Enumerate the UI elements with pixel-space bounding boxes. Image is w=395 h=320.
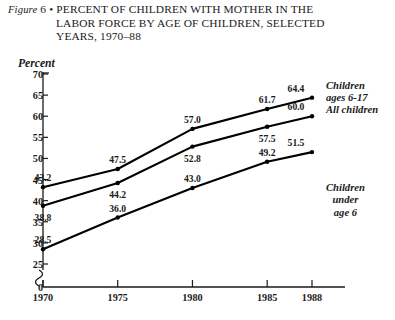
data-point-marker [116, 215, 120, 219]
legend-label-line-2: ages 6-17 [326, 92, 368, 104]
data-point-marker [116, 181, 120, 185]
y-axis-tick-label: 60 [21, 111, 43, 122]
data-point-label: 38.8 [35, 211, 52, 222]
data-point-label: 64.4 [288, 82, 305, 93]
data-point-marker [310, 150, 314, 154]
legend-label: Children [326, 182, 365, 193]
data-point-marker [190, 144, 194, 148]
data-point-label: 43.0 [184, 173, 201, 184]
x-axis-tick-label: 1970 [33, 292, 53, 303]
line-chart: Percent 706560555045403530250 1970197519… [0, 0, 395, 320]
data-point-label: 61.7 [259, 94, 276, 105]
data-point-label: 60.0 [288, 101, 305, 112]
data-point-marker [265, 160, 269, 164]
data-point-marker [116, 167, 120, 171]
data-point-label: 51.5 [288, 137, 305, 148]
legend-entry: All children [326, 104, 378, 116]
data-point-label: 52.8 [184, 152, 201, 163]
x-axis-tick-label: 1988 [302, 292, 322, 303]
legend-entry: Childrenages 6-17 [326, 80, 368, 105]
y-axis-tick-label-zero: 0 [21, 282, 43, 293]
y-axis-tick-label: 65 [21, 90, 43, 101]
y-axis-tick-labels: 706560555045403530250 [0, 0, 43, 320]
legend-label-line-2: under [326, 194, 365, 206]
legend-label: All children [326, 104, 378, 115]
data-point-label: 49.2 [259, 146, 276, 157]
x-axis-tick-label: 1980 [182, 292, 202, 303]
x-axis-tick-label: 1985 [257, 292, 277, 303]
y-axis-tick-label: 40 [21, 195, 43, 206]
y-axis-tick-label: 25 [21, 259, 43, 270]
x-axis-tick-label: 1975 [108, 292, 128, 303]
data-point-marker [265, 125, 269, 129]
data-point-marker [310, 95, 314, 99]
data-point-label: 44.2 [109, 188, 126, 199]
series-line-2 [43, 152, 312, 249]
data-point-marker [190, 186, 194, 190]
data-point-label: 36.0 [109, 202, 126, 213]
legend-entry: Childrenunderage 6 [326, 182, 365, 219]
y-axis-tick-label: 55 [21, 132, 43, 143]
data-point-label: 57.0 [184, 113, 201, 124]
legend-label: Children [326, 80, 365, 91]
y-axis-tick-label: 50 [21, 153, 43, 164]
data-point-marker [265, 107, 269, 111]
data-point-marker [310, 114, 314, 118]
legend-label-line-3: age 6 [326, 207, 365, 219]
data-point-label: 28.5 [35, 234, 52, 245]
data-point-marker [190, 127, 194, 131]
y-axis-tick-label: 70 [21, 69, 43, 80]
data-point-label: 47.5 [109, 154, 126, 165]
data-point-label: 57.5 [259, 132, 276, 143]
data-point-label: 43.2 [35, 172, 52, 183]
